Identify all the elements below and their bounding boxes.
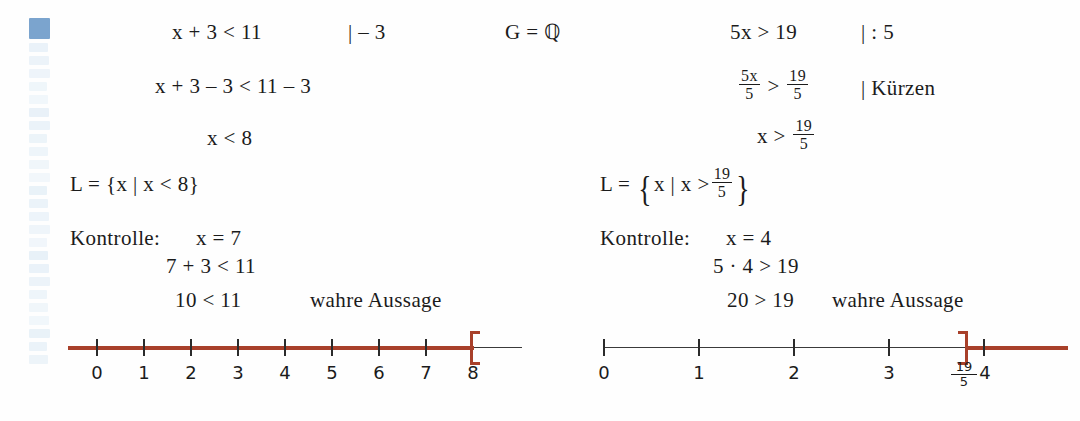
right-fraction-left-numerator: 5x xyxy=(739,67,760,84)
right-label-0: 0 xyxy=(589,362,619,383)
left-solution-lead: L = xyxy=(70,172,106,196)
left-check-step2: 10 < 11 xyxy=(175,288,241,313)
right-line3-numerator: 19 xyxy=(793,117,814,134)
left-solution-body: x | x < 8 xyxy=(116,172,188,196)
left-label-1: 1 xyxy=(129,362,159,383)
left-equation-line1: x + 3 < 11 xyxy=(172,20,262,45)
right-equation-line2: 5x 5 > 19 5 xyxy=(737,70,810,105)
left-equation-line2: x + 3 – 3 < 11 – 3 xyxy=(155,74,311,99)
right-solution-body: x | x > xyxy=(654,172,710,196)
right-equation-line3: x > 19 5 xyxy=(757,120,816,155)
marker-block xyxy=(29,186,47,195)
right-check-verdict: wahre Aussage xyxy=(832,288,964,313)
right-solution-close-brace: } xyxy=(737,178,751,201)
right-line2-relation: > xyxy=(767,74,779,98)
marker-block xyxy=(29,290,47,299)
marker-block xyxy=(29,277,50,286)
right-line3-denominator: 5 xyxy=(793,134,814,152)
marker-block xyxy=(29,108,49,117)
left-tick-7 xyxy=(425,339,427,356)
right-tick-0 xyxy=(603,339,605,356)
left-axis-highlight xyxy=(68,346,474,350)
right-check-step2: 20 > 19 xyxy=(727,288,794,313)
left-label-6: 6 xyxy=(364,362,394,383)
right-operation-line1: | : 5 xyxy=(861,20,894,45)
left-tick-6 xyxy=(378,339,380,356)
right-tick-2 xyxy=(793,339,795,356)
marker-block xyxy=(29,69,50,78)
right-solution-set: L = {x | x > 19 5 } xyxy=(600,168,752,203)
marker-block xyxy=(29,43,48,52)
left-check-step1: 7 + 3 < 11 xyxy=(166,254,256,279)
right-check-value: x = 4 xyxy=(726,226,771,251)
left-axis-tail xyxy=(474,347,522,348)
right-fraction-right-numerator: 19 xyxy=(787,67,808,84)
left-operation-line1: | – 3 xyxy=(348,20,386,45)
right-tick-3 xyxy=(888,339,890,356)
right-axis-tail xyxy=(604,347,968,348)
right-solution-denominator: 5 xyxy=(712,182,733,200)
left-label-0: 0 xyxy=(82,362,112,383)
right-solution-numerator: 19 xyxy=(712,165,733,182)
left-label-3: 3 xyxy=(223,362,253,383)
left-label-7: 7 xyxy=(411,362,441,383)
left-tick-4 xyxy=(284,339,286,356)
right-solution-lead: L = xyxy=(600,172,636,196)
right-operation-line2: | Kürzen xyxy=(861,76,935,101)
marker-block xyxy=(29,251,48,260)
right-line3-fraction: 19 5 xyxy=(793,117,814,152)
right-solution-fraction: 19 5 xyxy=(712,165,733,200)
right-tick-1 xyxy=(698,339,700,356)
marker-block xyxy=(29,121,50,130)
left-solution-set: L = {x | x < 8} xyxy=(70,172,199,197)
right-label-3: 3 xyxy=(874,362,904,383)
right-fraction-left: 5x 5 xyxy=(739,67,760,102)
marker-block xyxy=(29,303,48,312)
right-label-4: 4 xyxy=(970,362,1000,383)
marker-block-active xyxy=(29,18,50,39)
right-label-1: 1 xyxy=(684,362,714,383)
left-label-8: 8 xyxy=(458,362,488,383)
left-equation-line3: x < 8 xyxy=(207,126,252,151)
right-equation-line1: 5x > 19 xyxy=(730,20,797,45)
right-fraction-right: 19 5 xyxy=(787,67,808,102)
marker-block xyxy=(29,56,49,65)
right-line3-prefix: x > xyxy=(757,124,786,148)
marker-block xyxy=(29,147,48,156)
right-label-2: 2 xyxy=(779,362,809,383)
left-tick-3 xyxy=(237,339,239,356)
marker-block xyxy=(29,238,47,247)
left-boundary-bracket xyxy=(470,331,480,365)
left-tick-2 xyxy=(190,339,192,356)
marker-block xyxy=(29,212,49,221)
left-check-value: x = 7 xyxy=(196,226,241,251)
left-solution-close-brace: } xyxy=(189,172,199,196)
marker-block xyxy=(29,134,47,143)
left-solution-open-brace: { xyxy=(106,172,116,196)
left-check-label: Kontrolle: xyxy=(70,226,160,251)
right-number-line: 0 1 2 3 19 5 4 xyxy=(590,320,1080,420)
marker-block xyxy=(29,95,48,104)
right-check-step1: 5 · 4 > 19 xyxy=(713,254,799,279)
left-label-4: 4 xyxy=(270,362,300,383)
marker-block xyxy=(29,160,49,169)
right-solution-open-brace: { xyxy=(638,178,652,201)
marker-block xyxy=(29,173,50,182)
right-check-label: Kontrolle: xyxy=(600,226,690,251)
marker-block xyxy=(29,225,50,234)
left-tick-5 xyxy=(331,339,333,356)
right-fraction-right-denominator: 5 xyxy=(787,84,808,102)
left-number-line: 0 1 2 3 4 5 6 7 8 xyxy=(0,320,560,415)
marker-block xyxy=(29,264,49,273)
left-label-2: 2 xyxy=(176,362,206,383)
left-tick-1 xyxy=(143,339,145,356)
document-page: x + 3 < 11 | – 3 G = ℚ x + 3 – 3 < 11 – … xyxy=(0,0,1080,421)
left-domain-label: G = ℚ xyxy=(505,20,562,45)
marker-block xyxy=(29,199,48,208)
left-check-verdict: wahre Aussage xyxy=(310,288,442,313)
left-label-5: 5 xyxy=(317,362,347,383)
marker-block xyxy=(29,82,47,91)
right-fraction-left-denominator: 5 xyxy=(739,84,760,102)
right-tick-4 xyxy=(983,339,985,356)
left-tick-0 xyxy=(96,339,98,356)
